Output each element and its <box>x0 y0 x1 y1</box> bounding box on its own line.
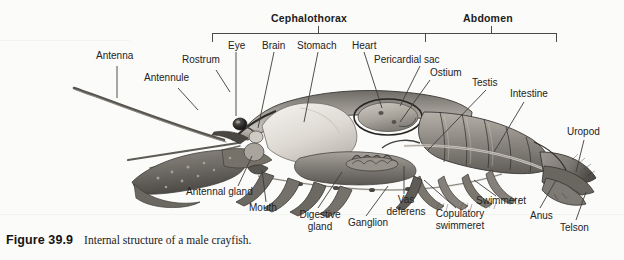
figure-caption: Figure 39.9 Internal structure of a male… <box>6 233 251 247</box>
label-anus: Anus <box>530 210 553 222</box>
bracket-horizontal-rule <box>212 33 557 34</box>
label-antennal-gland: Antennal gland <box>186 186 253 198</box>
label-uropod: Uropod <box>567 126 600 138</box>
figure-number: Figure 39.9 <box>6 233 73 247</box>
label-intestine: Intestine <box>510 88 548 100</box>
label-telson: Telson <box>560 222 589 234</box>
label-vas-deferens: Vas deferens <box>381 194 431 217</box>
label-digestive-gland: Digestive gland <box>293 209 347 232</box>
bracket-label-abdomen: Abdomen <box>463 12 513 24</box>
label-ostium: Ostium <box>430 67 462 79</box>
bracket-middle-tick <box>425 33 426 42</box>
figure-container: Cephalothorax Abdomen Antenna Antennule … <box>0 0 624 260</box>
label-pericardial-sac: Pericardial sac <box>374 54 440 66</box>
heart-region <box>354 99 422 135</box>
label-mouth: Mouth <box>249 202 277 214</box>
label-ganglion: Ganglion <box>348 217 388 229</box>
bracket-left-tick <box>212 33 213 42</box>
label-testis: Testis <box>472 77 498 89</box>
label-heart: Heart <box>352 40 376 52</box>
label-swimmeret: Swimmeret <box>476 195 526 207</box>
label-antenna: Antenna <box>96 50 133 62</box>
cephalothorax-stem <box>318 26 319 34</box>
label-antennule: Antennule <box>144 72 189 84</box>
label-rostrum: Rostrum <box>182 54 220 66</box>
abdomen-stem <box>491 26 492 34</box>
antennal-gland-organ <box>244 143 264 161</box>
label-brain: Brain <box>262 40 285 52</box>
label-copulatory-swimmeret: Copulatory swimmeret <box>428 208 492 231</box>
bracket-right-tick <box>556 33 557 42</box>
figure-caption-text: Internal structure of a male crayfish. <box>84 234 251 246</box>
label-stomach: Stomach <box>297 40 336 52</box>
label-eye: Eye <box>228 40 245 52</box>
bracket-label-cephalothorax: Cephalothorax <box>271 12 347 24</box>
